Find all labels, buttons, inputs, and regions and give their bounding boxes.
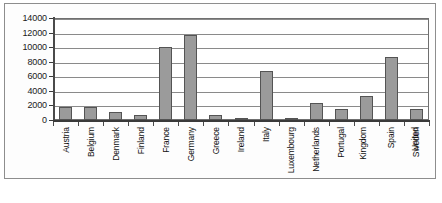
bar <box>159 47 172 120</box>
y-tick-label: 12000 <box>3 29 47 38</box>
bar <box>310 103 323 120</box>
y-tick-label: 2000 <box>3 101 47 110</box>
bar <box>260 71 273 120</box>
y-tick-label: 8000 <box>3 58 47 67</box>
x-tick-mark <box>228 122 229 126</box>
y-tick-label: 14000 <box>3 14 47 23</box>
x-tick-mark <box>203 122 204 126</box>
bar <box>84 107 97 120</box>
x-tick-mark <box>354 122 355 126</box>
bar <box>209 115 222 120</box>
x-tick-label: Sweden <box>412 127 442 179</box>
x-tick-mark <box>254 122 255 126</box>
y-tick-label: 10000 <box>3 43 47 52</box>
y-tick-label: 0 <box>3 116 47 125</box>
bar <box>285 118 298 120</box>
x-tick-mark <box>53 122 54 126</box>
x-axis-labels: AustriaBelgiumDenmarkFinlandFranceGerman… <box>53 127 429 179</box>
y-tick-label: 6000 <box>3 72 47 81</box>
x-tick-mark <box>304 122 305 126</box>
x-tick-mark <box>78 122 79 126</box>
x-tick-mark <box>128 122 129 126</box>
x-tick-mark <box>404 122 405 126</box>
bar <box>109 112 122 120</box>
bar <box>360 96 373 120</box>
x-tick-mark <box>329 122 330 126</box>
bar <box>335 109 348 120</box>
bar <box>134 115 147 120</box>
x-tick-mark <box>178 122 179 126</box>
x-tick-mark <box>103 122 104 126</box>
x-tick-mark <box>379 122 380 126</box>
bar <box>235 118 248 120</box>
x-label-group: Sweden <box>412 127 442 179</box>
bar <box>59 107 72 120</box>
x-tick-mark <box>429 122 430 126</box>
x-tick-mark <box>153 122 154 126</box>
bar-series <box>53 18 429 120</box>
y-tick-label: 4000 <box>3 87 47 96</box>
figure-frame: 14000120001000080006000400020000 Austria… <box>4 3 436 179</box>
bar <box>410 109 423 120</box>
bar <box>385 57 398 120</box>
bar <box>184 35 197 120</box>
x-tick-mark <box>279 122 280 126</box>
